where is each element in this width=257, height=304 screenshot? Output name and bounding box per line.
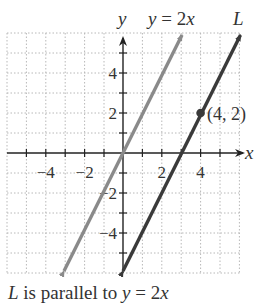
caption-eq: y = 2x [122,282,169,303]
line1-label: y = 2x [146,8,195,29]
tick-x-4: 4 [196,163,205,182]
tick-y-4: 4 [109,64,118,83]
caption-text: is parallel to [19,282,122,303]
y-axis-label: y [116,8,127,29]
x-axis-label: x [244,142,254,163]
caption: L is parallel to y = 2x [8,282,169,304]
tick-x-2: 2 [158,163,167,182]
point-4-2 [196,109,205,118]
tick-y-neg4: −4 [99,224,118,243]
caption-var: L [8,282,19,303]
tick-x-neg4: −4 [37,163,56,182]
line2-label: L [232,8,244,29]
tick-x-neg2: −2 [76,163,94,182]
tick-y-2: 2 [109,104,118,123]
point-label: (4, 2) [207,104,246,125]
